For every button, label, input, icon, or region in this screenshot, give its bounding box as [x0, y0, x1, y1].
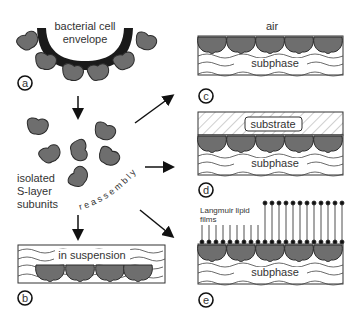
films-text-1: Langmuir lipid	[200, 206, 250, 215]
label-b: b	[22, 292, 28, 304]
panel-b: in suspension b	[18, 245, 165, 305]
panel-a: bacterial cell envelope a	[15, 20, 158, 90]
panel-d: substrate subphase d	[198, 112, 343, 197]
air-text: air	[266, 20, 279, 32]
lipid-short	[200, 225, 260, 244]
subphase-text-d: subphase	[251, 157, 299, 169]
arrow-to-e	[140, 210, 172, 236]
isolated-text-1: isolated	[17, 172, 55, 184]
panel-e: Langmuir lipid films	[198, 201, 344, 307]
substrate-text: substrate	[250, 118, 295, 130]
suspension-text: in suspension	[58, 249, 125, 261]
label-c: c	[203, 90, 209, 102]
isolated-text-3: subunits	[17, 198, 58, 210]
s-layer-diagram: bacterial cell envelope a isolated S-lay…	[0, 0, 359, 326]
label-a: a	[22, 77, 29, 89]
panel-c: air subphase c	[198, 20, 343, 103]
subphase-text-e: subphase	[251, 266, 299, 278]
label-d: d	[203, 184, 209, 196]
arrow-to-c	[135, 96, 172, 123]
films-text-2: films	[200, 215, 216, 224]
envelope-text-2: envelope	[63, 33, 108, 45]
envelope-text-1: bacterial cell	[54, 20, 115, 32]
label-e: e	[203, 294, 209, 306]
subphase-text-c: subphase	[251, 57, 299, 69]
isolated-text-2: S-layer	[17, 185, 52, 197]
lipid-long	[263, 201, 344, 244]
